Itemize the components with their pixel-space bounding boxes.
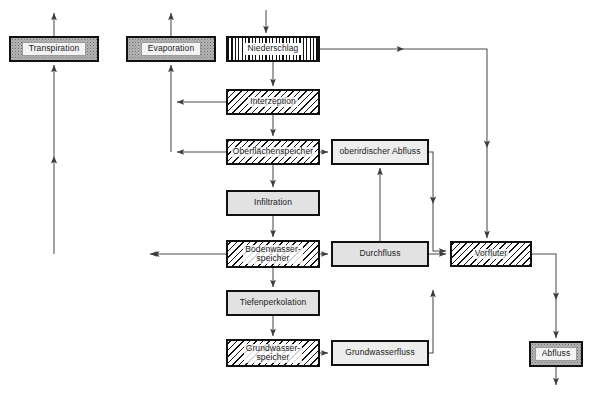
node-interzeption-label: Interzeption (248, 97, 298, 107)
node-interzeption[interactable]: Interzeption (226, 89, 320, 115)
node-bodenwasserspeicher-label: Bodenwasser- speicher (243, 245, 303, 264)
node-grundwasserspeicher[interactable]: Grundwasser- speicher (226, 339, 320, 367)
node-evaporation-label: Evaporation (141, 42, 201, 56)
edge-vorfluter-to-abfluss (532, 254, 556, 338)
node-vorfluter[interactable]: Vorfluter (450, 241, 532, 267)
node-durchfluss-label: Durchfluss (358, 249, 401, 259)
node-tiefenperkolation[interactable]: Tiefenperkolation (226, 290, 320, 316)
node-niederschlag[interactable]: Niederschlag (226, 36, 320, 62)
node-vorfluter-label: Vorfluter (473, 249, 510, 259)
node-transpiration[interactable]: Transpiration (9, 36, 99, 62)
node-grundwasserspeicher-label: Grundwasser- speicher (244, 344, 303, 363)
edge-oberirdischer-abfluss-to-vorfluter (429, 152, 446, 251)
node-grundwasserfluss[interactable]: Grundwasserfluss (331, 340, 429, 366)
edge-grundwasserfluss-to-vorfluter (429, 290, 433, 353)
node-bodenwasserspeicher[interactable]: Bodenwasser- speicher (226, 240, 320, 268)
node-infiltration[interactable]: Infiltration (226, 190, 320, 216)
node-transpiration-label: Transpiration (22, 42, 87, 56)
node-oberirdischer-abfluss-label: oberirdischer Abfluss (339, 147, 422, 157)
node-abfluss[interactable]: Abfluss (529, 341, 583, 367)
node-oberflaechenspeicher-label: Oberflächenspeicher (231, 147, 315, 157)
node-abfluss-label: Abfluss (535, 347, 578, 361)
node-oberflaechenspeicher[interactable]: Oberflächenspeicher (226, 139, 320, 165)
node-niederschlag-label: Niederschlag (244, 43, 303, 55)
node-durchfluss[interactable]: Durchfluss (331, 241, 429, 267)
diagram-canvas: Transpiration Evaporation Niederschlag I… (0, 0, 592, 394)
node-oberirdischer-abfluss[interactable]: oberirdischer Abfluss (331, 139, 429, 165)
node-infiltration-label: Infiltration (253, 198, 293, 208)
node-evaporation[interactable]: Evaporation (126, 36, 216, 62)
node-grundwasserfluss-label: Grundwasserfluss (344, 348, 416, 358)
node-tiefenperkolation-label: Tiefenperkolation (239, 298, 308, 308)
